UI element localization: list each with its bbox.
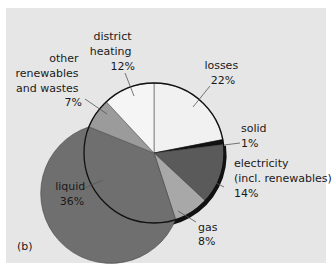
pie-chart: losses 22% solid 1% electricity (incl. r… bbox=[0, 0, 335, 273]
leader-solid bbox=[224, 143, 240, 145]
panel-label: (b) bbox=[17, 240, 33, 253]
label-electricity: electricity (incl. renewables) 14% bbox=[234, 157, 335, 200]
label-gas: gas 8% bbox=[198, 221, 221, 248]
label-district-heating: district heating 12% bbox=[90, 30, 135, 73]
label-other-renewables: other renewables and wastes 7% bbox=[15, 52, 82, 109]
label-solid: solid 1% bbox=[241, 122, 270, 150]
label-losses: losses 22% bbox=[204, 59, 241, 87]
